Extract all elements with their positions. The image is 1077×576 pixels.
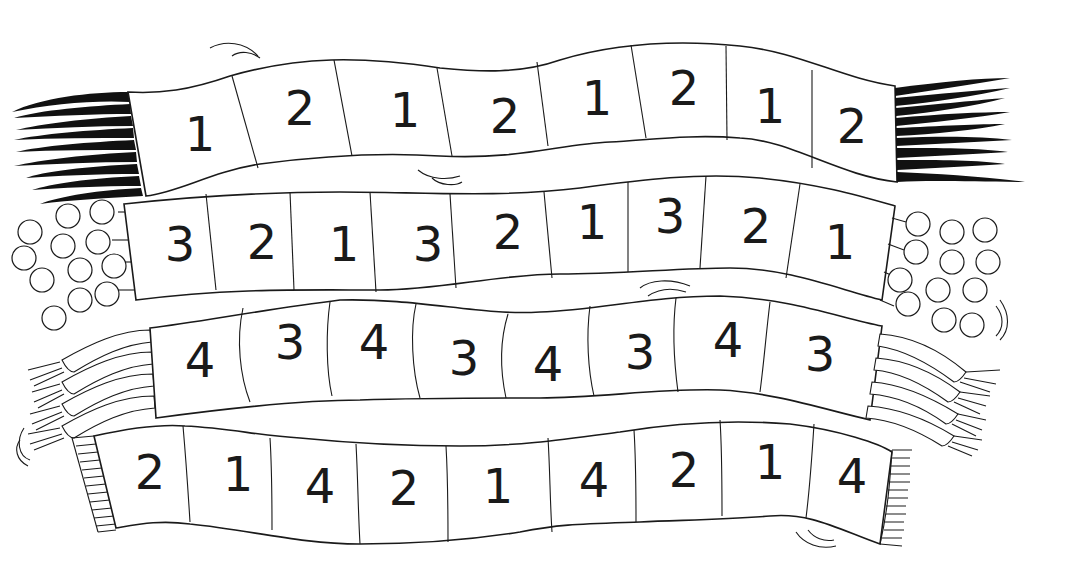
cell-value: 1 — [185, 106, 216, 162]
cell-value: 1 — [755, 78, 786, 134]
scarf-1: 1 2 1 2 1 2 1 2 — [12, 43, 1025, 204]
cell-value: 1 — [577, 194, 608, 250]
braided-tassel-fringe-right-icon — [866, 334, 1000, 456]
black-fringe-left-icon — [12, 92, 143, 204]
pompom-fringe-left-icon — [12, 200, 134, 330]
cell-value: 2 — [837, 98, 868, 154]
cell-value: 3 — [655, 188, 686, 244]
cell-value: 3 — [413, 216, 444, 272]
cell-value: 2 — [135, 444, 166, 500]
cell-value: 1 — [329, 216, 360, 272]
cell-value: 2 — [389, 460, 420, 516]
cell-value: 4 — [713, 312, 744, 368]
cell-value: 4 — [579, 452, 610, 508]
scarf-4: 2 1 4 2 1 4 2 1 4 — [17, 420, 912, 547]
cell-value: 3 — [165, 216, 196, 272]
cell-value: 4 — [837, 448, 868, 504]
cell-value: 2 — [490, 88, 521, 144]
cell-value: 3 — [449, 330, 480, 386]
cell-value: 1 — [390, 82, 421, 138]
cell-value: 1 — [223, 446, 254, 502]
black-fringe-right-icon — [895, 78, 1025, 182]
cell-value: 4 — [305, 458, 336, 514]
cell-value: 2 — [493, 204, 524, 260]
cell-value: 2 — [669, 60, 700, 116]
cell-value: 1 — [582, 70, 613, 126]
cell-value: 2 — [285, 80, 316, 136]
cell-value: 3 — [805, 326, 836, 382]
scarves-illustration: 1 2 1 2 1 2 1 2 — [0, 0, 1077, 576]
cell-value: 3 — [625, 324, 656, 380]
cell-value: 1 — [483, 458, 514, 514]
pompom-fringe-right-icon — [880, 212, 1000, 337]
cell-value: 4 — [533, 336, 564, 392]
cell-value: 2 — [669, 442, 700, 498]
cell-value: 1 — [825, 214, 856, 270]
cell-value: 1 — [755, 434, 786, 490]
cell-value: 2 — [741, 198, 772, 254]
cell-value: 3 — [275, 314, 306, 370]
cell-value: 2 — [247, 214, 278, 270]
cell-value: 4 — [359, 314, 390, 370]
cell-value: 4 — [185, 332, 216, 388]
